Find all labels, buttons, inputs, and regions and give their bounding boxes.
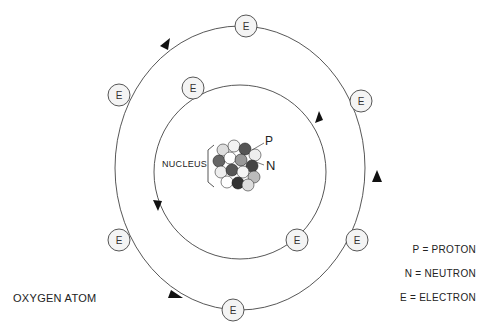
- svg-text:E: E: [354, 235, 361, 246]
- nucleus-bracket: [208, 145, 214, 187]
- electron: E: [108, 229, 130, 251]
- svg-text:E: E: [190, 83, 197, 94]
- arrow-icon: [315, 111, 323, 123]
- electron: E: [235, 15, 257, 37]
- proton-pointer: [252, 143, 264, 150]
- arrow-icon: [160, 38, 170, 50]
- legend-proton: P = PROTON: [413, 244, 476, 255]
- neutron-marker: N: [266, 158, 276, 173]
- electron: E: [346, 229, 368, 251]
- legend-neutron: N = NEUTRON: [405, 268, 476, 279]
- nucleus-label: NUCLEUS: [162, 159, 207, 169]
- svg-text:E: E: [243, 21, 250, 32]
- legend-electron: E = ELECTRON: [400, 292, 476, 303]
- svg-text:E: E: [358, 96, 365, 107]
- svg-text:E: E: [116, 90, 123, 101]
- atom-diagram: E E E E E E E E: [0, 0, 490, 332]
- nucleus-cluster: [213, 140, 261, 191]
- proton-marker: P: [265, 134, 273, 148]
- svg-text:E: E: [116, 235, 123, 246]
- electron: E: [108, 84, 130, 106]
- electron: E: [350, 90, 372, 112]
- electron: E: [182, 77, 204, 99]
- electron: E: [286, 229, 308, 251]
- electron: E: [222, 299, 244, 321]
- svg-text:E: E: [294, 235, 301, 246]
- arrow-icon: [372, 170, 382, 182]
- svg-text:E: E: [230, 305, 237, 316]
- arrow-icon: [168, 290, 183, 298]
- diagram-title: OXYGEN ATOM: [13, 292, 97, 304]
